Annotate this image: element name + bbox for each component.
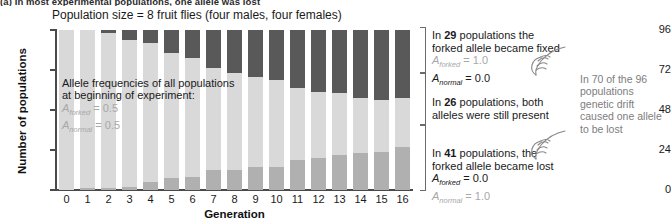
x-tick-label: 2 [98,193,120,205]
x-tick-label: 1 [77,193,99,205]
x-tick-label: 7 [203,193,225,205]
note-forked-fixed-allele-forked: Aforked = 1.0 [432,54,592,72]
chart-title: Population size = 8 fruit flies (four ma… [52,8,342,22]
bar-segment-forked-allele-became-lost [311,158,326,190]
note-forked-lost-allele-forked: Aforked = 0.0 [432,172,592,190]
bar-segment-forked-allele-became-fixed [227,30,242,73]
bar-generation-10 [269,30,284,190]
note-forked-fixed-line1: In 29 populations the [432,29,592,42]
initial-note-allele-normal: Anormal = 0.5 [62,119,262,137]
bar-generation-12 [311,30,326,190]
x-tick-label: 4 [140,193,162,205]
bar-segment-forked-allele-became-fixed [290,30,305,88]
bar-segment-both-alleles-still-present [353,98,368,153]
bar-segment-forked-allele-became-fixed [164,30,179,53]
x-tick-label: 8 [224,193,246,205]
figure-caption: (a) In most experimental populations, on… [0,0,420,6]
bar-segment-forked-allele-became-fixed [374,30,389,100]
note-forked-lost: In 41 populations, the forked allele bec… [432,147,592,208]
bar-segment-forked-allele-became-lost [395,147,410,190]
bar-segment-forked-allele-became-lost [80,188,95,190]
x-tick-label: 11 [287,193,309,205]
initial-note-allele-forked: Aforked = 0.5 [62,102,262,120]
bar-segment-forked-allele-became-fixed [206,30,221,68]
bar-segment-forked-allele-became-lost [374,152,389,190]
x-tick-label: 15 [371,193,393,205]
x-tick-label: 13 [329,193,351,205]
note-forked-fixed-line2: forked allele became fixed [432,42,592,55]
bar-segment-forked-allele-became-fixed [395,30,410,98]
bar-segment-forked-allele-became-lost [332,155,347,190]
initial-frequencies-note: Allele frequencies of all populations at… [62,77,262,137]
bar-segment-both-alleles-still-present [269,80,284,167]
y-tick-label: 24 [625,143,671,155]
bar-generation-15 [374,30,389,190]
bar-segment-forked-allele-became-lost [269,167,284,190]
bar-segment-forked-allele-became-fixed [101,30,116,33]
y-tick-label: 96 [625,23,671,35]
note-both-present-line1: In 26 populations, both [432,96,592,109]
bar-segment-forked-allele-became-lost [122,187,137,190]
bar-segment-forked-allele-became-fixed [353,30,368,98]
bar-segment-forked-allele-became-fixed [185,30,200,58]
figure-root: (a) In most experimental populations, on… [0,0,671,223]
x-tick-label: 16 [392,193,414,205]
bar-segment-forked-allele-became-fixed [269,30,284,80]
bracket-fixed [420,27,426,73]
note-forked-lost-line2: forked allele became lost [432,160,592,173]
bar-segment-forked-allele-became-lost [353,153,368,190]
bar-segment-both-alleles-still-present [332,93,347,155]
note-both-present-line2: alleles were still present [432,109,592,122]
bar-segment-forked-allele-became-lost [227,170,242,190]
bar-segment-forked-allele-became-fixed [143,30,158,43]
bar-segment-both-alleles-still-present [395,98,410,146]
x-tick-label: 14 [350,193,372,205]
note-genetic-drift-summary: In 70 of the 96 populations genetic drif… [580,73,670,135]
bar-segment-forked-allele-became-lost [164,178,179,190]
note-forked-fixed: In 29 populations the forked allele beca… [432,29,592,90]
y-tick-label: 0 [625,183,671,195]
bar-segment-forked-allele-became-fixed [332,30,347,93]
bar-segment-both-alleles-still-present [290,88,305,160]
y-tick-mark [50,29,55,31]
bracket-both [420,73,426,125]
y-tick-mark [50,109,55,111]
bar-segment-forked-allele-became-lost [101,188,116,190]
bar-generation-14 [353,30,368,190]
bar-segment-forked-allele-became-fixed [122,30,137,40]
y-axis-label: Number of populations [16,31,28,191]
bar-segment-forked-allele-became-lost [248,167,263,190]
y-tick-mark [50,149,55,151]
bar-generation-16 [395,30,410,190]
x-tick-label: 3 [119,193,141,205]
bar-segment-both-alleles-still-present [311,92,326,159]
bracket-lost [420,125,426,191]
initial-note-line1: Allele frequencies of all populations [62,77,262,89]
bar-segment-forked-allele-became-lost [206,170,221,190]
x-tick-label: 12 [308,193,330,205]
bar-generation-11 [290,30,305,190]
bar-segment-forked-allele-became-lost [185,177,200,190]
x-tick-label: 5 [161,193,183,205]
y-axis-line [55,29,57,191]
bar-segment-forked-allele-became-fixed [248,30,263,77]
x-tick-label: 0 [56,193,78,205]
x-tick-label: 10 [266,193,288,205]
initial-note-line2: at beginning of experiment: [62,89,262,101]
bar-segment-forked-allele-became-fixed [311,30,326,92]
y-tick-mark [50,189,55,191]
y-tick-mark [50,69,55,71]
note-forked-fixed-allele-normal: Anormal = 0.0 [432,72,592,90]
note-forked-lost-allele-normal: Anormal = 1.0 [432,190,592,208]
x-axis-label: Generation [56,208,413,220]
x-tick-label: 6 [182,193,204,205]
bar-segment-forked-allele-became-lost [143,182,158,190]
bar-generation-13 [332,30,347,190]
note-both-present: In 26 populations, both alleles were sti… [432,96,592,121]
x-tick-label: 9 [245,193,267,205]
bar-segment-forked-allele-became-lost [290,160,305,190]
bar-segment-both-alleles-still-present [374,100,389,152]
note-forked-lost-line1: In 41 populations, the [432,147,592,160]
